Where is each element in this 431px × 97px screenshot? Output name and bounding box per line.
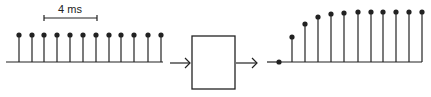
input-arrow-icon xyxy=(170,58,190,68)
output-arrow-icon xyxy=(236,58,257,68)
sample-dot xyxy=(328,11,333,16)
sample-dot xyxy=(341,10,346,15)
sample-dot xyxy=(380,9,385,14)
scale-bar xyxy=(44,15,97,21)
sample-dot xyxy=(118,32,123,37)
input-signal xyxy=(6,32,164,62)
sample-dot xyxy=(16,32,21,37)
sample-dot xyxy=(302,21,307,26)
step-response-diagram: 4 ms xyxy=(0,0,431,97)
sample-dot xyxy=(41,32,46,37)
sample-dot xyxy=(80,32,85,37)
sample-dot xyxy=(131,32,136,37)
sample-dot xyxy=(106,32,111,37)
sample-dot xyxy=(419,9,424,14)
sample-dot xyxy=(276,59,281,64)
system-block xyxy=(192,36,235,89)
sample-dot xyxy=(393,9,398,14)
sample-dot xyxy=(158,32,163,37)
output-signal xyxy=(267,9,425,64)
sample-dot xyxy=(54,32,59,37)
sample-dot xyxy=(289,34,294,39)
sample-dot xyxy=(67,32,72,37)
sample-dot xyxy=(29,32,34,37)
sample-dot xyxy=(368,9,373,14)
sample-dot xyxy=(315,14,320,19)
sample-dot xyxy=(145,32,150,37)
sample-dot xyxy=(355,9,360,14)
sample-dot xyxy=(406,9,411,14)
scale-bar-label: 4 ms xyxy=(58,3,82,15)
sample-dot xyxy=(93,32,98,37)
